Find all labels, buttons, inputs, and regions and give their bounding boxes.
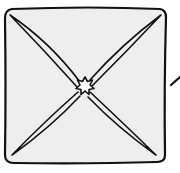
side-tick-mark [171,77,180,85]
sketch-canvas [0,0,180,173]
